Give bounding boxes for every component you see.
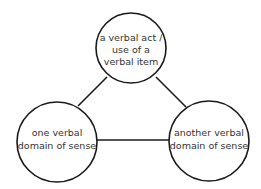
node-left: one verbal domain of sense [17, 102, 97, 182]
node-top: a verbal act / use of a verbal item [96, 13, 166, 83]
triangle-diagram: a verbal act / use of a verbal item one … [0, 0, 261, 189]
node-top-line-2: use of a [112, 44, 150, 55]
node-top-line-1: a verbal act / [100, 32, 164, 43]
edge-top-left [78, 77, 107, 106]
node-left-line-1: one verbal [32, 127, 83, 138]
node-right-line-1: another verbal [174, 127, 244, 138]
node-right-line-2: domain of sense [170, 140, 249, 151]
node-left-line-2: domain of sense [18, 140, 97, 151]
node-right: another verbal domain of sense [169, 101, 249, 181]
edge-top-right [156, 77, 186, 107]
node-top-line-3: verbal item [104, 56, 158, 67]
